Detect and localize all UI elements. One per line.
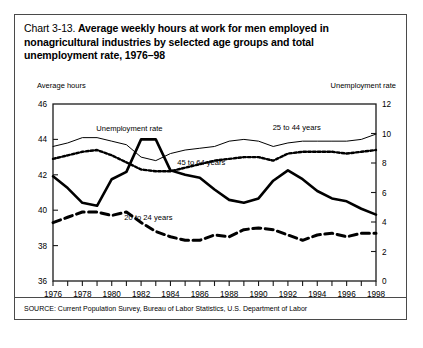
right-axis-tick-label: 2 — [382, 248, 387, 257]
right-axis-tick-label: 0 — [382, 277, 387, 286]
right-axis-tick-label: 6 — [382, 189, 387, 198]
chart-figure-frame: Chart 3-13. Average weekly hours at work… — [14, 14, 407, 320]
chart-svg: 3638404244460246810121976197819801982198… — [15, 15, 408, 321]
left-axis-tick-label: 40 — [38, 206, 48, 215]
plot-area: 3638404244460246810121976197819801982198… — [15, 15, 408, 321]
series-annotation: 20 to 24 years — [124, 213, 172, 222]
left-axis-tick-label: 44 — [38, 135, 48, 144]
left-axis-tick-label: 42 — [38, 171, 48, 180]
series-annotation: 45 to 64 years — [177, 158, 225, 167]
series-annotation: Unemployment rate — [96, 124, 162, 133]
right-axis-tick-label: 4 — [382, 218, 387, 227]
series-line-25-to-44-years — [53, 134, 376, 161]
left-axis-tick-label: 38 — [38, 242, 48, 251]
left-axis-tick-label: 36 — [38, 277, 48, 286]
right-axis-tick-label: 8 — [382, 159, 387, 168]
series-line-20-to-24-years — [53, 212, 376, 240]
right-axis-tick-label: 10 — [382, 130, 392, 139]
right-axis-tick-label: 12 — [382, 100, 392, 109]
series-annotation: 25 to 44 years — [273, 123, 321, 132]
source-note: SOURCE: Current Population Survey, Burea… — [24, 305, 307, 312]
source-divider — [15, 297, 406, 298]
left-axis-tick-label: 46 — [38, 100, 48, 109]
